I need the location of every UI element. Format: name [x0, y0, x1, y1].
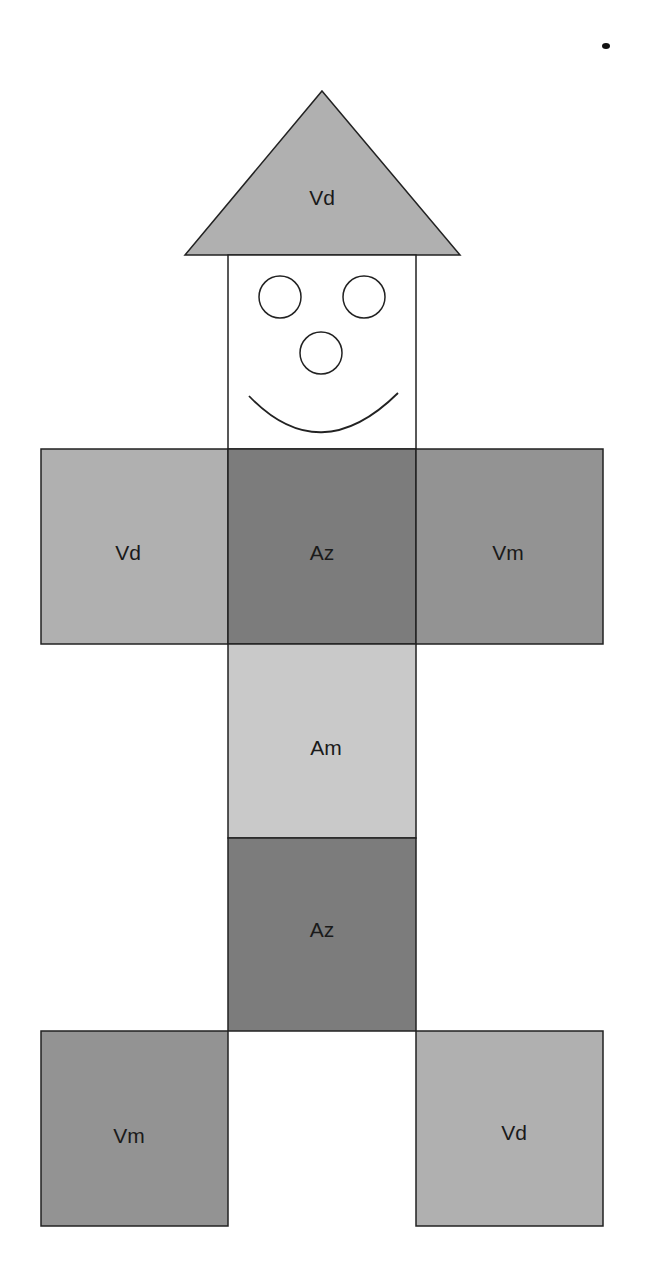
legs: Vm Vd — [41, 1031, 603, 1226]
left-leg-label: Vm — [113, 1124, 145, 1147]
left-arm-label: Vd — [115, 541, 141, 564]
stray-dot — [602, 43, 610, 49]
shape-figure-diagram: Vd Vd Az Vm Am Az Vm Vd — [0, 0, 645, 1284]
right-leg-label: Vd — [501, 1121, 527, 1144]
belly-label: Am — [310, 736, 342, 759]
hat-triangle — [185, 91, 460, 255]
right-arm-label: Vm — [492, 541, 524, 564]
face — [228, 255, 416, 449]
chest-label: Az — [310, 541, 335, 564]
hat: Vd — [185, 91, 460, 255]
arms-row: Vd Az Vm — [41, 449, 603, 644]
waist-label: Az — [310, 918, 335, 941]
body-column: Am Az — [228, 644, 416, 1031]
hat-label: Vd — [309, 186, 335, 209]
face-square — [228, 255, 416, 449]
